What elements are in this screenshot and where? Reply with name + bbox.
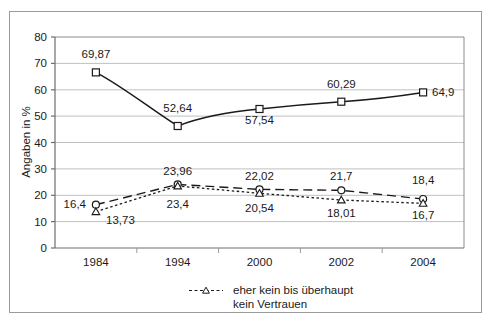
label-s3-1994: 23,4	[167, 198, 190, 210]
label-s1-2000: 57,54	[245, 114, 274, 126]
marker-1994	[174, 123, 181, 130]
y-tick-40: 40	[34, 137, 47, 149]
x-tick-1994: 1994	[165, 256, 191, 268]
y-tick-80: 80	[34, 31, 47, 43]
y-tick-10: 10	[34, 216, 47, 228]
label-s3-1984: 13,73	[106, 214, 135, 226]
y-tick-70: 70	[34, 57, 47, 69]
x-tick-2000: 2000	[247, 256, 273, 268]
legend-label-line1: eher kein bis überhaupt	[233, 284, 354, 296]
y-tick-0: 0	[41, 242, 47, 254]
label-s3-2002: 18,01	[327, 207, 356, 219]
chart-page: 80 70 60 50 40 30 20 10 0 1984 1994	[0, 0, 495, 323]
x-axis-tick-labels: 1984 1994 2000 2002 2004	[83, 256, 436, 268]
x-tick-1984: 1984	[83, 256, 109, 268]
chart-legend: eher kein bis überhaupt kein Vertrauen	[189, 284, 354, 310]
marker-2002	[338, 187, 345, 194]
label-s1-2004: 64,9	[432, 86, 454, 98]
y-tick-60: 60	[34, 84, 47, 96]
label-s3-2004: 16,7	[412, 209, 434, 221]
y-axis-title: Angaben in %	[20, 106, 32, 178]
y-tick-20: 20	[34, 189, 47, 201]
label-s2-1994: 23,96	[163, 165, 192, 177]
label-s2-2004: 18,4	[412, 174, 435, 186]
line-chart: 80 70 60 50 40 30 20 10 0 1984 1994	[10, 12, 481, 312]
y-tick-30: 30	[34, 163, 47, 175]
marker-2000	[256, 106, 263, 113]
label-s1-1994: 52,64	[163, 102, 192, 114]
label-s1-1984: 69,87	[82, 48, 111, 60]
x-tick-2004: 2004	[410, 256, 436, 268]
label-s2-2002: 21,7	[330, 170, 352, 182]
x-tick-2002: 2002	[329, 256, 355, 268]
y-axis-tick-labels: 80 70 60 50 40 30 20 10 0	[34, 31, 47, 254]
x-axis-ticks	[137, 248, 382, 253]
marker-1984	[92, 69, 99, 76]
label-s2-1984: 16,4	[64, 198, 87, 210]
y-tick-50: 50	[34, 110, 47, 122]
chart-frame: 80 70 60 50 40 30 20 10 0 1984 1994	[9, 11, 482, 313]
label-s1-2002: 60,29	[327, 78, 356, 90]
marker-2002	[338, 98, 345, 105]
marker-2004	[420, 89, 427, 96]
legend-label-line2: kein Vertrauen	[233, 298, 307, 310]
label-s3-2000: 20,54	[245, 202, 274, 214]
label-s2-2000: 22,02	[245, 170, 274, 182]
